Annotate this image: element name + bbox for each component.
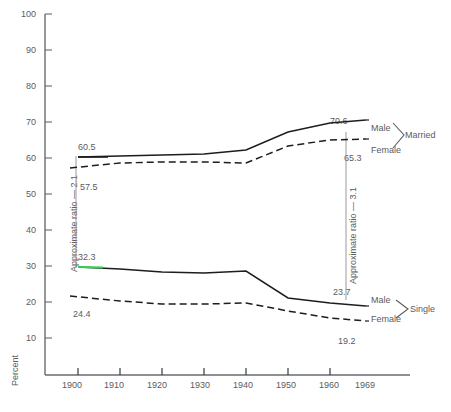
x-tick-marks — [78, 368, 330, 375]
y-tick-marks — [45, 14, 52, 338]
line-married-male — [78, 120, 366, 157]
line-married-female — [70, 139, 366, 168]
marital-status-line-chart: 100 90 80 70 60 50 40 30 20 10 Percent 1… — [0, 0, 451, 412]
line-single-male — [78, 267, 366, 306]
bracket-single — [396, 300, 408, 318]
bracket-married — [393, 123, 404, 148]
scan-artifact-green-segment — [78, 267, 103, 268]
chart-canvas — [0, 0, 451, 412]
line-single-female — [70, 296, 366, 321]
leader-lines — [366, 120, 369, 321]
